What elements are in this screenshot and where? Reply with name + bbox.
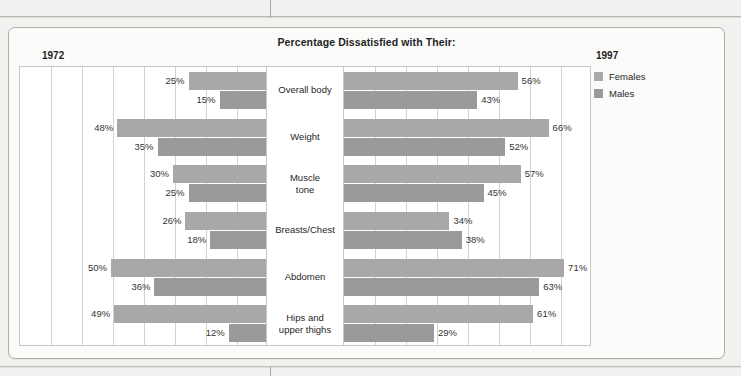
- value-label-1997-females-5: 61%: [537, 305, 556, 323]
- gridline-40: [144, 67, 145, 345]
- category-label-column: Overall bodyWeightMuscletoneBreasts/Ches…: [267, 66, 343, 346]
- category-label-3: Breasts/Chest: [267, 224, 343, 236]
- plot-area: 25%48%30%26%50%49%15%35%25%18%36%12% Ove…: [19, 66, 676, 346]
- bar-1997-females-3: [344, 212, 449, 230]
- page-top-rule-2: [0, 17, 741, 18]
- bar-1997-females-4: [344, 259, 564, 277]
- value-label-1997-females-3: 34%: [453, 212, 472, 230]
- value-label-1972-males-3: 18%: [187, 231, 206, 249]
- bar-1972-males-1: [158, 138, 267, 156]
- category-label-line: Abdomen: [267, 271, 343, 283]
- category-label-1: Weight: [267, 131, 343, 143]
- bar-1972-males-4: [154, 278, 266, 296]
- axis-year-label-right: 1997: [596, 50, 618, 61]
- value-label-1972-males-2: 25%: [165, 184, 184, 202]
- page-bottom-rule-2: [0, 367, 741, 368]
- bar-1972-females-0: [189, 72, 267, 90]
- category-label-line: Weight: [267, 131, 343, 143]
- bar-1997-females-0: [344, 72, 518, 90]
- bar-1972-males-0: [220, 91, 267, 109]
- figure-frame: Percentage Dissatisfied with Their: 1972…: [8, 27, 725, 359]
- gridline-60: [530, 67, 531, 345]
- category-label-line: upper thighs: [267, 324, 343, 336]
- bar-1972-females-3: [185, 212, 266, 230]
- bar-1997-females-2: [344, 165, 521, 183]
- category-label-0: Overall body: [267, 84, 343, 96]
- bar-1997-males-2: [344, 184, 484, 202]
- bar-1972-males-2: [189, 184, 267, 202]
- value-label-1972-males-5: 12%: [206, 324, 225, 342]
- value-label-1997-females-1: 66%: [553, 119, 572, 137]
- value-label-1972-males-0: 15%: [196, 91, 215, 109]
- bar-1997-males-1: [344, 138, 505, 156]
- gridline-60: [82, 67, 83, 345]
- value-label-1972-males-1: 35%: [134, 138, 153, 156]
- bar-1972-males-5: [229, 324, 266, 342]
- gridline-70: [561, 67, 562, 345]
- value-label-1997-females-2: 57%: [525, 165, 544, 183]
- bar-1972-females-4: [111, 259, 266, 277]
- value-label-1997-females-4: 71%: [568, 259, 587, 277]
- value-label-1997-males-5: 29%: [438, 324, 457, 342]
- bar-1972-females-2: [173, 165, 266, 183]
- bar-1972-females-5: [114, 305, 266, 323]
- gridline-70: [51, 67, 52, 345]
- category-label-5: Hips andupper thighs: [267, 312, 343, 336]
- axis-year-label-left: 1972: [42, 50, 64, 61]
- category-label-2: Muscletone: [267, 172, 343, 196]
- bar-1997-males-5: [344, 324, 434, 342]
- bar-1997-males-4: [344, 278, 539, 296]
- value-label-1997-males-3: 38%: [466, 231, 485, 249]
- bar-1972-males-3: [210, 231, 266, 249]
- value-label-1972-females-0: 25%: [165, 72, 184, 90]
- category-label-4: Abdomen: [267, 271, 343, 283]
- category-label-line: Breasts/Chest: [267, 224, 343, 236]
- value-label-1972-females-3: 26%: [162, 212, 181, 230]
- value-label-1997-males-4: 63%: [543, 278, 562, 296]
- category-label-line: Hips and: [267, 312, 343, 324]
- chart-panel-1972: 25%48%30%26%50%49%15%35%25%18%36%12%: [19, 66, 267, 346]
- bar-1997-females-5: [344, 305, 533, 323]
- category-label-line: Overall body: [267, 84, 343, 96]
- bar-1972-females-1: [117, 119, 266, 137]
- value-label-1972-females-2: 30%: [150, 165, 169, 183]
- page-fold-tick-top: [270, 0, 271, 18]
- bar-1997-females-1: [344, 119, 549, 137]
- value-label-1997-males-1: 52%: [509, 138, 528, 156]
- gridline-50: [113, 67, 114, 345]
- chart-title: Percentage Dissatisfied with Their:: [9, 36, 724, 48]
- value-label-1997-males-2: 45%: [488, 184, 507, 202]
- value-label-1972-males-4: 36%: [131, 278, 150, 296]
- bar-1997-males-0: [344, 91, 477, 109]
- category-label-line: Muscle: [267, 172, 343, 184]
- bar-1997-males-3: [344, 231, 462, 249]
- category-label-line: tone: [267, 184, 343, 196]
- chart-panel-1997: 56%66%57%34%71%61%43%52%45%38%63%29%: [343, 66, 591, 346]
- value-label-1972-females-4: 50%: [88, 259, 107, 277]
- value-label-1997-males-0: 43%: [481, 91, 500, 109]
- value-label-1997-females-0: 56%: [522, 72, 541, 90]
- value-label-1972-females-5: 49%: [91, 305, 110, 323]
- page-fold-tick-bottom: [270, 366, 271, 376]
- gridline-30: [175, 67, 176, 345]
- value-label-1972-females-1: 48%: [94, 119, 113, 137]
